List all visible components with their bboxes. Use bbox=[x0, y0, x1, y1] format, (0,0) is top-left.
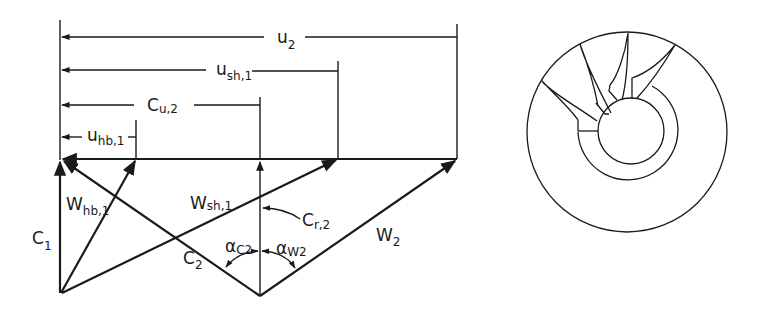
figure: u2 ush,1 Cu,2 uhb,1 C1 bbox=[0, 0, 761, 316]
vector-whb1 bbox=[61, 161, 135, 293]
label-whb1: Whb,1 bbox=[66, 194, 109, 218]
leader-cr2 bbox=[263, 208, 300, 219]
label-cr2: Cr,2 bbox=[302, 210, 330, 232]
label-wsh1: Wsh,1 bbox=[190, 193, 232, 213]
dimension-lines: u2 ush,1 Cu,2 uhb,1 bbox=[60, 20, 457, 160]
angle-arcs: αC2 αW2 bbox=[225, 236, 307, 268]
label-alpha-c2: αC2 bbox=[225, 236, 252, 257]
label-c1: C1 bbox=[32, 228, 52, 253]
vector-c2 bbox=[64, 161, 260, 296]
impeller-blade-1 bbox=[542, 81, 597, 131]
impeller-blade-2 bbox=[580, 44, 611, 114]
impeller-sketch bbox=[527, 32, 727, 232]
impeller-blade-4 bbox=[632, 45, 675, 99]
label-u2: u2 bbox=[277, 27, 295, 52]
dimension-uhb1: uhb,1 bbox=[62, 120, 136, 159]
vector-w2 bbox=[260, 161, 455, 296]
velocity-diagram-svg: u2 ush,1 Cu,2 uhb,1 C1 bbox=[0, 0, 761, 316]
label-w2: W2 bbox=[376, 225, 400, 249]
velocity-vectors: C1 Whb,1 Wsh,1 C2 Cr,2 W2 bbox=[32, 160, 455, 296]
label-alpha-w2: αW2 bbox=[276, 238, 307, 259]
label-uhb1: uhb,1 bbox=[87, 125, 124, 148]
impeller-shroud-arc bbox=[578, 86, 678, 180]
label-cu2: Cu,2 bbox=[147, 95, 178, 116]
label-ush1: ush,1 bbox=[216, 59, 252, 83]
label-c2: C2 bbox=[183, 248, 203, 272]
impeller-blade-3 bbox=[609, 33, 628, 100]
